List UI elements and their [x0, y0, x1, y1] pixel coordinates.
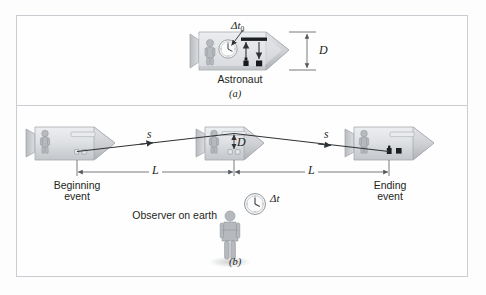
figure-root: Δt0 D Astronaut (a) s s D L L Beginning … [0, 0, 486, 295]
dimension-L-label-left: L [149, 164, 162, 177]
proper-time-symbol: Δt [231, 19, 241, 31]
dimension-D-label-b: D [237, 136, 246, 149]
panel-b-label: (b) [229, 256, 241, 267]
ending-event-label: Ending event [350, 180, 430, 202]
proper-time-label-a: Δt0 [231, 20, 244, 34]
proper-time-subscript: 0 [241, 25, 245, 34]
light-path-label-right: s [324, 128, 328, 140]
ending-event-line-2: event [350, 191, 430, 202]
dimension-D-label-a: D [319, 44, 328, 57]
beginning-event-label: Beginning event [37, 180, 117, 202]
dimension-L-label-right: L [305, 164, 318, 177]
light-path-label-left: s [147, 128, 151, 140]
panel-a-label: (a) [229, 88, 241, 99]
dilated-time-label: Δt [270, 193, 280, 205]
beginning-event-line-2: event [37, 191, 117, 202]
astronaut-caption: Astronaut [200, 74, 280, 85]
panel-divider [16, 105, 468, 106]
observer-caption: Observer on earth [112, 210, 217, 221]
